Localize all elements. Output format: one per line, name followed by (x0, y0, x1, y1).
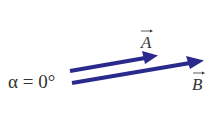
vector-diagram: A B α = 0° (0, 0, 219, 130)
vector-b-label: B (192, 72, 205, 95)
vector-a-label: A (140, 30, 153, 53)
svg-text:A: A (140, 33, 152, 52)
vector-a-arrow (70, 51, 158, 71)
angle-label: α = 0° (8, 71, 55, 92)
svg-text:B: B (192, 75, 203, 94)
